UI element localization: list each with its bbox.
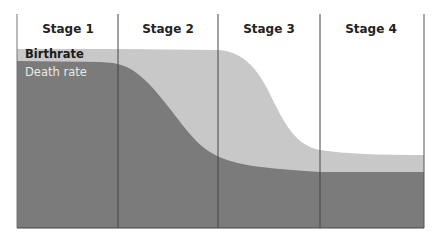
chart-svg: [0, 0, 438, 240]
stage-2-label: Stage 2: [118, 22, 218, 36]
stage-1-label: Stage 1: [18, 22, 118, 36]
demographic-transition-chart: Stage 1 Stage 2 Stage 3 Stage 4 Birthrat…: [0, 0, 438, 240]
birthrate-label: Birthrate: [25, 47, 84, 61]
death-rate-label: Death rate: [25, 65, 87, 79]
stage-3-label: Stage 3: [219, 22, 319, 36]
stage-4-label: Stage 4: [321, 22, 421, 36]
